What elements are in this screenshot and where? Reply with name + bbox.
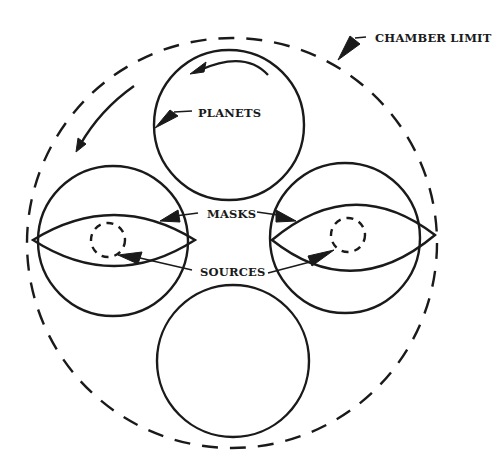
planet-bottom [157, 285, 309, 437]
mask-left [33, 215, 195, 266]
chamber-limit-circle [27, 38, 437, 448]
planet-top [154, 50, 304, 200]
masks-leader-left-arrow-icon [160, 210, 198, 222]
sources-label: SOURCES [200, 265, 266, 279]
sources-leader-left-arrow-icon [118, 252, 192, 270]
source-right [331, 218, 365, 252]
masks-leader-right-arrow-icon [257, 210, 296, 222]
source-left [91, 223, 125, 257]
planet-rotation-arrow-icon [190, 61, 268, 75]
mask-right [272, 205, 435, 271]
masks-label: MASKS [207, 207, 256, 221]
planet-right [270, 163, 420, 313]
planets-label: PLANETS [198, 106, 261, 120]
planets-leader-arrow-icon [155, 110, 192, 128]
planet-left [38, 166, 188, 316]
planetary-chamber-diagram [0, 0, 503, 464]
chamber-rotation-arrow-icon [76, 86, 134, 152]
chamber-limit-label: CHAMBER LIMIT [375, 31, 491, 45]
chamber-limit-leader-arrow-icon [338, 36, 366, 60]
